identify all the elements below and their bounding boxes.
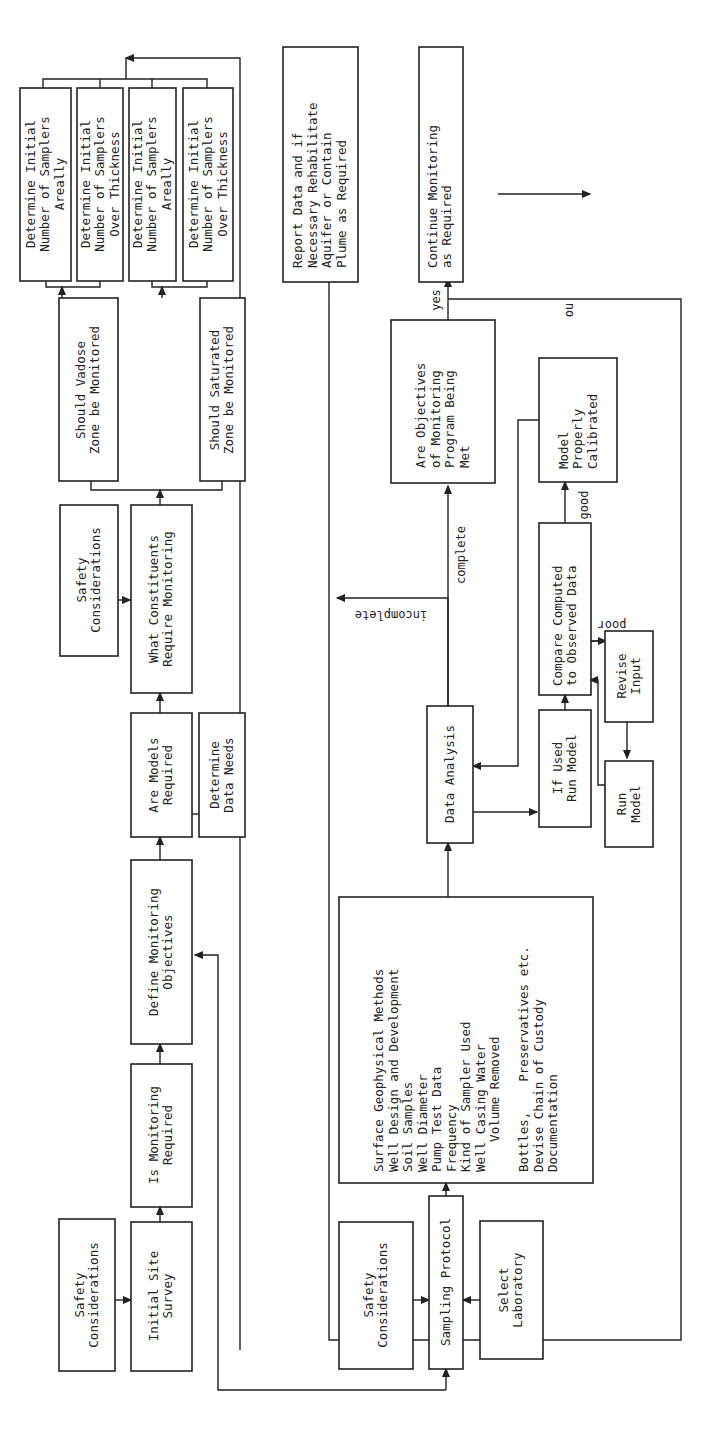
edge-label-no: no xyxy=(563,303,577,317)
edge-label-incomplete: incomplete xyxy=(355,608,427,622)
edge-label-poor: poor xyxy=(598,618,627,632)
node-label-models-required: Are ModelsRequired xyxy=(146,737,176,812)
node-label-det-vadose-thick: Determine InitialNumber of SamplersOver … xyxy=(78,116,122,251)
node-label-data-analysis: Data Analysis xyxy=(442,725,457,823)
node-label-det-sat-thick: Determine InitialNumber of SamplersOver … xyxy=(186,116,230,251)
node-label-compare: Compare Computedto Observed Data xyxy=(550,566,580,686)
flowchart: Determine InitialNumber of SamplersAreal… xyxy=(0,0,720,1443)
node-label-if-used: If UsedRun Model xyxy=(550,734,580,802)
edge-label-good: good xyxy=(577,491,591,520)
edge-label-complete: complete xyxy=(454,526,468,584)
node-label-vadose: Should VadoseZone be Monitored xyxy=(73,326,103,454)
edge-label-yes: yes xyxy=(429,289,443,311)
node-label-constituents: What ConstituentsRequire Monitoring xyxy=(146,531,176,666)
node-label-revise: ReviseInput xyxy=(614,653,644,698)
node-label-data-needs: DetermineData Needs xyxy=(207,737,237,812)
node-label-sampling-protocol: Sampling Protocol xyxy=(438,1218,453,1346)
node-label-saturated: Should SaturatedZone be Monitored xyxy=(207,326,237,454)
